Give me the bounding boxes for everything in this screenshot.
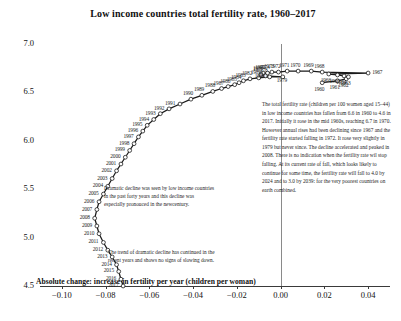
data-point-1969 [309, 69, 313, 73]
data-point-1991 [178, 102, 182, 106]
data-point-1985 [233, 83, 237, 87]
data-point-1983 [242, 79, 246, 83]
data-point-1972 [277, 70, 281, 74]
data-point-1971 [285, 69, 289, 73]
data-point-1995 [145, 123, 149, 127]
data-point-1965 [336, 73, 340, 77]
annotation-dramatic-decline: Dramatic decline was seen by low income … [104, 185, 216, 209]
chart-canvas: Total fertility rate in low income count… [0, 0, 401, 321]
year-label-1988: 1988 [205, 83, 215, 88]
data-point-1963 [347, 75, 351, 79]
year-label-1960: 1960 [314, 87, 324, 92]
year-label-1979: 1979 [277, 78, 287, 83]
data-point-1967 [366, 71, 370, 75]
year-label-2004: 2004 [93, 183, 103, 188]
year-label-2008: 2008 [80, 215, 90, 220]
year-label-2001: 2001 [106, 161, 116, 166]
data-point-2001 [119, 162, 123, 166]
data-point-2008 [93, 216, 97, 220]
year-label-1999: 1999 [115, 147, 125, 152]
year-label-1998: 1998 [119, 141, 129, 146]
year-label-2013: 2013 [97, 254, 107, 259]
year-label-1967: 1967 [372, 70, 382, 75]
data-point-2010 [97, 232, 101, 236]
data-point-2007 [95, 208, 99, 212]
data-point-1980 [268, 75, 272, 79]
data-point-1999 [128, 149, 132, 153]
year-label-1968: 1968 [314, 64, 324, 69]
data-point-1982 [248, 77, 252, 81]
year-label-2006: 2006 [84, 199, 94, 204]
year-label-2005: 2005 [88, 191, 98, 196]
year-label-1997: 1997 [123, 134, 133, 139]
year-label-1966: 1966 [321, 78, 331, 83]
year-label-2011: 2011 [88, 239, 98, 244]
data-point-1988 [211, 90, 215, 94]
year-label-1991: 1991 [165, 101, 175, 106]
x-axis-title: Absolute change: increase in fertility p… [36, 277, 384, 286]
data-point-1996 [141, 129, 145, 133]
year-label-1990: 1990 [183, 91, 193, 96]
data-point-2006 [97, 200, 101, 204]
data-point-2002 [115, 169, 119, 173]
data-point-1973 [270, 70, 274, 74]
year-label-2003: 2003 [97, 176, 107, 181]
year-label-2012: 2012 [93, 247, 103, 252]
annotation-summary-box: The total fertility rate (children per 1… [262, 100, 392, 194]
year-label-1981: 1981 [251, 70, 261, 75]
data-point-2009 [95, 224, 99, 228]
year-label-1989: 1989 [194, 87, 204, 92]
data-point-1994 [152, 118, 156, 122]
data-point-1993 [158, 112, 162, 116]
annotation-recent-trend: The trend of dramatic decline has contin… [108, 249, 220, 265]
data-point-1986 [226, 85, 230, 89]
year-label-1969: 1969 [303, 63, 313, 68]
data-point-1997 [137, 135, 141, 139]
data-point-1987 [220, 87, 224, 91]
data-point-1966 [327, 72, 331, 76]
year-label-2000: 2000 [110, 154, 120, 159]
data-point-2015 [117, 270, 121, 274]
data-point-1970 [296, 69, 300, 73]
data-point-1998 [132, 142, 136, 146]
data-point-1984 [237, 81, 241, 85]
year-label-2010: 2010 [84, 231, 94, 236]
data-point-1992 [167, 107, 171, 111]
data-point-2011 [102, 241, 106, 245]
year-label-2007: 2007 [82, 207, 92, 212]
data-point-2000 [123, 155, 127, 159]
data-point-2003 [110, 177, 114, 181]
year-label-1965: 1965 [330, 79, 340, 84]
year-label-2002: 2002 [102, 168, 112, 173]
data-point-1964 [342, 74, 346, 78]
data-point-1968 [320, 70, 324, 74]
data-point-1990 [189, 97, 193, 101]
year-label-1970: 1970 [290, 63, 300, 68]
year-label-1987: 1987 [214, 81, 224, 86]
data-point-1989 [200, 93, 204, 97]
year-label-2015: 2015 [104, 268, 114, 273]
year-label-2009: 2009 [82, 223, 92, 228]
